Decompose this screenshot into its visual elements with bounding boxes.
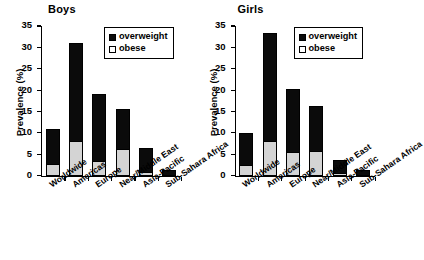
legend-entry-overweight: overweight xyxy=(299,31,358,43)
y-axis-tick-label: 25 xyxy=(215,63,226,73)
y-axis-tick-label: 5 xyxy=(27,149,32,159)
y-axis-tick: 25 xyxy=(231,68,235,69)
y-axis-tick-label: 5 xyxy=(220,149,225,159)
panel-title-girls: Girls xyxy=(238,3,264,15)
bar-americas xyxy=(69,43,83,176)
y-axis-tick: 30 xyxy=(231,47,235,48)
y-axis-tick: 35 xyxy=(37,25,41,26)
legend-label-overweight: overweight xyxy=(309,32,358,41)
legend-swatch-overweight-icon xyxy=(109,34,116,41)
chart-panel-girls: Girls Prevalence (%) 05101520253035 over… xyxy=(194,0,388,260)
legend-swatch-overweight-icon xyxy=(299,34,306,41)
y-axis-tick: 5 xyxy=(37,154,41,155)
y-axis-tick: 25 xyxy=(37,68,41,69)
y-axis-tick-label: 0 xyxy=(27,170,32,180)
chart-panel-boys: Boys Prevalence (%) 05101520253035 overw… xyxy=(0,0,194,260)
legend-swatch-obese-icon xyxy=(299,46,306,53)
y-axis-tick-label: 20 xyxy=(21,85,32,95)
y-axis-tick: 0 xyxy=(231,175,235,176)
y-axis-tick-label: 15 xyxy=(215,106,226,116)
y-axis-tick: 20 xyxy=(37,90,41,91)
legend-entry-obese: obese xyxy=(299,43,358,55)
bar-americas xyxy=(263,33,277,176)
y-axis-tick: 15 xyxy=(37,111,41,112)
legend-label-obese: obese xyxy=(309,44,336,53)
legend-label-overweight: overweight xyxy=(119,32,168,41)
legend-boys: overweight obese xyxy=(104,27,174,59)
y-axis-tick: 10 xyxy=(231,132,235,133)
y-axis-tick: 30 xyxy=(37,47,41,48)
y-axis-tick-label: 30 xyxy=(21,42,32,52)
y-axis-tick-label: 10 xyxy=(21,128,32,138)
y-axis-tick: 5 xyxy=(231,154,235,155)
y-axis-tick-label: 30 xyxy=(215,42,226,52)
panel-title-boys: Boys xyxy=(48,3,76,15)
legend-label-obese: obese xyxy=(119,44,146,53)
y-axis-tick: 10 xyxy=(37,132,41,133)
y-axis-tick-label: 35 xyxy=(215,21,226,31)
y-axis-tick-label: 25 xyxy=(21,63,32,73)
legend-entry-obese: obese xyxy=(109,43,168,55)
y-axis-tick: 0 xyxy=(37,175,41,176)
y-axis-tick-label: 35 xyxy=(21,21,32,31)
y-axis-tick: 20 xyxy=(231,90,235,91)
legend-swatch-obese-icon xyxy=(109,46,116,53)
y-axis-line xyxy=(235,26,236,177)
y-axis-tick-label: 0 xyxy=(220,170,225,180)
bar-worldwide xyxy=(239,133,253,176)
y-axis-tick: 15 xyxy=(231,111,235,112)
legend-girls: overweight obese xyxy=(294,27,364,59)
y-axis-tick-label: 20 xyxy=(215,85,226,95)
y-axis-tick: 35 xyxy=(231,25,235,26)
y-axis-line xyxy=(41,26,42,177)
y-axis-tick-label: 15 xyxy=(21,106,32,116)
bar-worldwide xyxy=(46,129,60,176)
y-axis-tick-label: 10 xyxy=(215,128,226,138)
legend-entry-overweight: overweight xyxy=(109,31,168,43)
